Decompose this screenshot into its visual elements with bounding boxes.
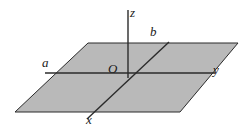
shaded-plane	[15, 43, 238, 112]
line-a-label: a	[42, 56, 49, 69]
y-axis-label: y	[213, 63, 219, 76]
x-axis-label: x	[86, 113, 92, 126]
line-b-label: b	[150, 25, 157, 38]
origin-label: O	[108, 62, 117, 75]
geometry-figure: z b a O y x	[0, 0, 252, 131]
z-axis-label: z	[130, 6, 135, 19]
